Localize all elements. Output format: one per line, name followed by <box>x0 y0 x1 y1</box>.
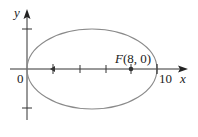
x-axis-label: x <box>179 71 186 86</box>
focus-left-marker <box>50 64 55 74</box>
y-axis-label: y <box>12 5 20 20</box>
focus-label: F(8, 0) <box>114 51 151 66</box>
x-tick-label-10: 10 <box>159 71 172 86</box>
origin-label: 0 <box>17 71 24 86</box>
ellipse-diagram: y 0 10 x F(8, 0) <box>0 0 198 137</box>
focus-coords: (8, 0) <box>123 51 151 66</box>
